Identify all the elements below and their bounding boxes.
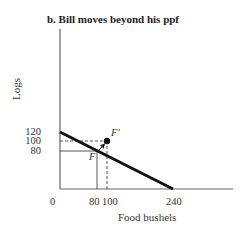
arrow-f-to-fprime [99, 144, 105, 150]
x-tick-0: 0 [50, 196, 55, 207]
point-fprime [104, 138, 110, 144]
x-tick-80: 80 [89, 196, 100, 207]
ppf-line [60, 132, 173, 189]
x-tick-240: 240 [166, 196, 182, 207]
y-tick-80: 80 [17, 145, 41, 156]
point-f-label: F [89, 151, 95, 162]
chart-plot [0, 0, 250, 232]
x-axis-label: Food bushels [118, 211, 176, 223]
point-fprime-label: F′ [111, 127, 120, 138]
x-tick-100: 100 [102, 196, 118, 207]
